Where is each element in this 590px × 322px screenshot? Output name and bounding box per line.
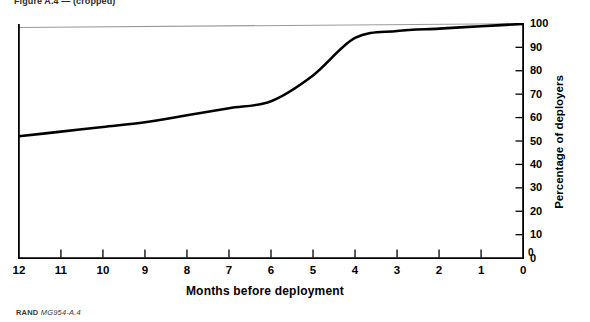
y-axis-ticks (516, 47, 523, 234)
x-axis-tick-label: 12 (7, 264, 31, 277)
y-axis-tick-label: 70 (530, 89, 542, 100)
x-axis-tick-label: 0 (511, 264, 535, 277)
figure-id: RAND MG954-A.4 (16, 308, 81, 317)
y-axis-tick-label: 20 (530, 206, 542, 217)
x-axis-tick-label: 9 (133, 264, 157, 277)
x-axis-tick-label: 4 (343, 264, 367, 277)
x-axis-tick-label: 3 (385, 264, 409, 277)
figure-id-number: MG954-A.4 (41, 308, 81, 317)
x-axis-ticks (61, 250, 481, 258)
plot-area (18, 23, 524, 259)
x-axis-tick-label: 5 (301, 264, 325, 277)
figure-container: Figure A.4 — (cropped) 01020304050607080… (0, 0, 590, 322)
x-axis-tick-label: 6 (259, 264, 283, 277)
y-axis-tick-label: 60 (530, 112, 542, 123)
y-axis-tick-label: 100 (530, 18, 548, 29)
x-axis-tick-label: 8 (175, 264, 199, 277)
x-axis-zero-right-label: 0 (528, 247, 534, 258)
x-axis-tick-label: 7 (217, 264, 241, 277)
axis-frame (19, 24, 523, 258)
x-axis-tick-label: 2 (427, 264, 451, 277)
y-axis-tick-label: 40 (530, 159, 542, 170)
x-axis-title: Months before deployment (0, 284, 530, 298)
chart-svg (18, 23, 524, 259)
y-axis-tick-label: 80 (530, 65, 542, 76)
x-axis-tick-label: 1 (469, 264, 493, 277)
x-axis-tick-label: 10 (91, 264, 115, 277)
y-axis-tick-label: 30 (530, 182, 542, 193)
y-axis-tick-label: 90 (530, 42, 542, 53)
y-axis-title: Percentage of deployers (553, 0, 565, 52)
y-axis-tick-label: 10 (530, 229, 542, 240)
cropped-header-text: Figure A.4 — (cropped) (14, 0, 334, 7)
x-axis-tick-label: 11 (49, 264, 73, 277)
figure-id-prefix: RAND (16, 308, 38, 317)
data-series-line (19, 24, 523, 136)
y-axis-tick-label: 50 (530, 136, 542, 147)
